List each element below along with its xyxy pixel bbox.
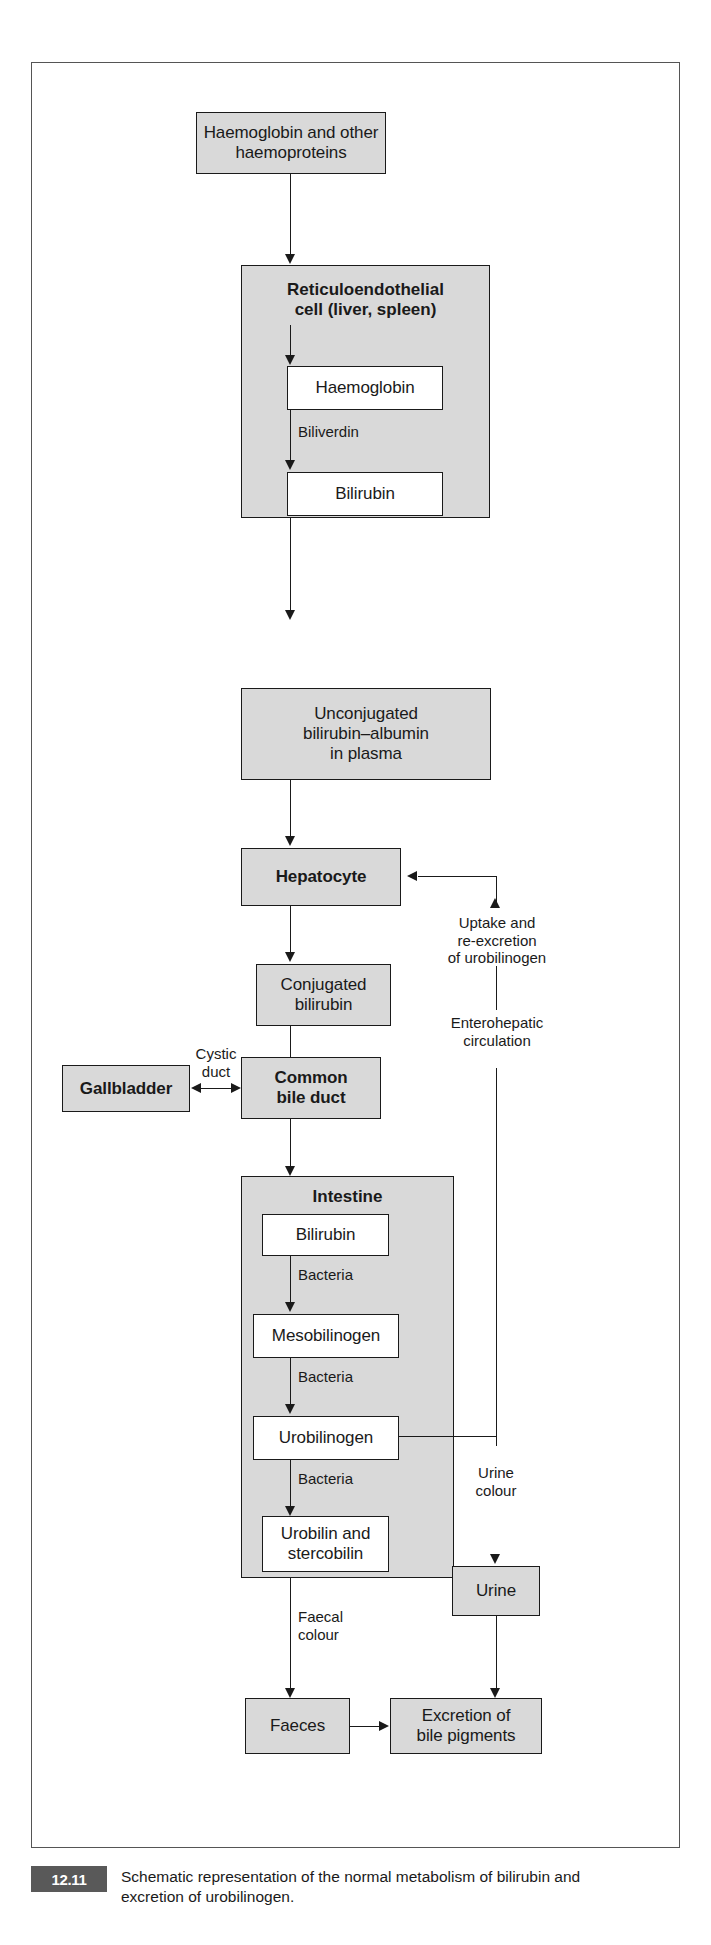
node-conjugated-bilirubin-label: Conjugated bilirubin <box>281 975 367 1014</box>
node-haemoglobin-box: Haemoglobin <box>287 366 443 410</box>
connector-urobilinogen-to-riser <box>398 1436 497 1437</box>
node-urobilinogen: Urobilinogen <box>253 1416 399 1460</box>
connector-haemoglobin-to-bilirubin <box>290 410 291 462</box>
node-urobilin-stercobilin-label: Urobilin and stercobilin <box>281 1524 371 1563</box>
arrowhead-riser-to-urine <box>490 1554 500 1564</box>
node-bilirubin-re: Bilirubin <box>287 472 443 516</box>
node-excretion: Excretion of bile pigments <box>390 1698 542 1754</box>
arrowhead-re-title-to-haemoglobin <box>285 355 295 365</box>
connector-hepatocyte-to-conjugated <box>290 906 291 954</box>
node-common-bile-duct: Common bile duct <box>241 1057 381 1119</box>
connector-cbd-to-intestine <box>290 1119 291 1169</box>
arrowhead-source-to-re <box>285 254 295 264</box>
node-faeces-label: Faeces <box>270 1716 325 1736</box>
node-gallbladder: Gallbladder <box>62 1065 190 1112</box>
arrowhead-faeces-to-excretion <box>379 1721 389 1731</box>
connector-re-title-to-haemoglobin <box>290 325 291 357</box>
figure-caption: 12.11 Schematic representation of the no… <box>31 1866 680 1907</box>
connector-re-to-unconjugated <box>290 518 291 612</box>
node-haemoglobin-label: Haemoglobin <box>315 378 414 398</box>
node-conjugated-bilirubin: Conjugated bilirubin <box>256 964 391 1026</box>
node-common-bile-duct-label: Common bile duct <box>274 1068 347 1107</box>
node-hepatocyte: Hepatocyte <box>241 848 401 906</box>
node-excretion-label: Excretion of bile pigments <box>417 1706 516 1745</box>
arrowhead-hepatocyte-to-conjugated <box>285 952 295 962</box>
node-bilirubin-gut-label: Bilirubin <box>296 1225 356 1245</box>
node-gallbladder-label: Gallbladder <box>80 1079 172 1099</box>
edge-label-cystic-duct: Cystic duct <box>176 1045 256 1080</box>
connector-faeces-to-excretion <box>350 1726 380 1727</box>
node-faeces: Faeces <box>245 1698 350 1754</box>
connector-source-to-re <box>290 174 291 256</box>
connector-unconjugated-to-hepatocyte <box>290 780 291 838</box>
edge-label-bacteria-3: Bacteria <box>298 1470 388 1488</box>
arrowhead-bilirubin-to-mesobilinogen <box>285 1302 295 1312</box>
connector-cystic-duct <box>200 1088 232 1089</box>
region-reticuloendothelial-title: Reticuloendothelial cell (liver, spleen) <box>242 280 489 319</box>
edge-label-urine-colour: Urine colour <box>448 1464 544 1499</box>
arrowhead-urine-to-excretion <box>490 1688 500 1698</box>
node-unconjugated: Unconjugated bilirubin–albumin in plasma <box>241 688 491 780</box>
figure-caption-text: Schematic representation of the normal m… <box>121 1866 601 1907</box>
arrowhead-intestine-to-faeces <box>285 1688 295 1698</box>
connector-bilirubin-to-mesobilinogen <box>290 1256 291 1304</box>
node-urine: Urine <box>452 1566 540 1616</box>
arrowhead-urobilinogen-to-urobilin <box>285 1506 295 1516</box>
edge-label-bacteria-2: Bacteria <box>298 1368 388 1386</box>
arrowhead-enterohepatic-to-hepatocyte <box>407 871 417 881</box>
connector-enterohepatic-vertical-lower <box>496 1068 497 1446</box>
edge-label-faecal-colour: Faecal colour <box>298 1608 394 1643</box>
node-bilirubin-gut: Bilirubin <box>262 1214 389 1256</box>
arrowhead-unconjugated-to-hepatocyte <box>285 836 295 846</box>
connector-enterohepatic-horizontal <box>418 876 497 877</box>
arrowhead-cystic-duct-left <box>191 1083 201 1093</box>
connector-mesobilinogen-to-urobilinogen <box>290 1358 291 1406</box>
arrowhead-haemoglobin-to-bilirubin <box>285 460 295 470</box>
arrowhead-mesobilinogen-to-urobilinogen <box>285 1404 295 1414</box>
connector-enterohepatic-vertical-mid <box>496 966 497 1010</box>
node-mesobilinogen: Mesobilinogen <box>253 1314 399 1358</box>
arrowhead-enterohepatic-riser <box>490 898 500 908</box>
edge-label-biliverdin: Biliverdin <box>298 423 408 441</box>
node-unconjugated-label: Unconjugated bilirubin–albumin in plasma <box>303 704 429 763</box>
node-bilirubin-re-label: Bilirubin <box>335 484 395 504</box>
node-mesobilinogen-label: Mesobilinogen <box>272 1326 380 1346</box>
edge-label-uptake-reexcretion: Uptake and re-excretion of urobilinogen <box>416 914 578 967</box>
connector-intestine-to-faeces <box>290 1578 291 1690</box>
edge-label-bacteria-1: Bacteria <box>298 1266 388 1284</box>
node-haemoglobin-source-label: Haemoglobin and other haemoproteins <box>201 123 381 162</box>
arrowhead-cystic-duct-right <box>231 1083 241 1093</box>
arrowhead-cbd-to-intestine <box>285 1166 295 1176</box>
region-intestine-title: Intestine <box>242 1187 453 1207</box>
figure-number-badge: 12.11 <box>31 1866 107 1892</box>
connector-urine-to-excretion <box>496 1616 497 1690</box>
node-urine-label: Urine <box>476 1581 516 1601</box>
edge-label-enterohepatic-circulation: Enterohepatic circulation <box>416 1014 578 1049</box>
connector-urobilinogen-to-urobilin <box>290 1460 291 1508</box>
node-haemoglobin-source: Haemoglobin and other haemoproteins <box>196 112 386 174</box>
arrowhead-re-to-unconjugated <box>285 610 295 620</box>
node-urobilinogen-label: Urobilinogen <box>279 1428 373 1448</box>
node-urobilin-stercobilin: Urobilin and stercobilin <box>262 1516 389 1572</box>
node-hepatocyte-label: Hepatocyte <box>276 867 367 887</box>
